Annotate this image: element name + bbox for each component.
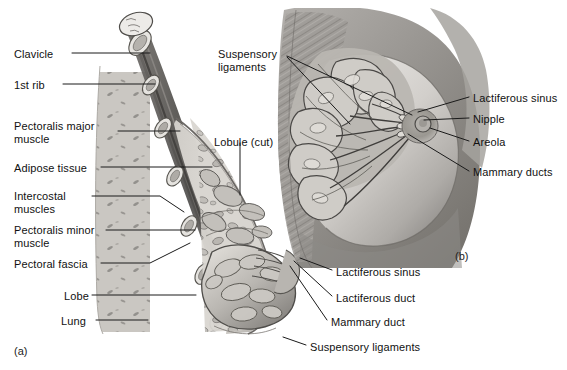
label-nipple: Nipple [473,113,505,126]
label-intercostal-muscles: Intercostal muscles [14,190,66,215]
label-areola: Areola [473,136,505,149]
label-1st-rib: 1st rib [14,79,45,92]
label-clavicle: Clavicle [14,48,53,61]
anatomy-figure: Clavicle1st ribPectoralis major muscleAd… [0,0,567,370]
label-lobule-cut: Lobule (cut) [214,136,273,149]
label-lactiferous-sinus: Lactiferous sinus [473,92,557,105]
label-mammary-duct: Mammary duct [331,316,405,329]
label-suspensory-ligaments: Suspensory ligaments [310,341,420,354]
label-pectoral-fascia: Pectoral fascia [14,258,88,271]
label-lactiferous-duct: Lactiferous duct [336,292,415,305]
panel-tag-sagittal-section: (a) [14,345,27,357]
label-suspensory-ligaments: Suspensory ligaments [218,48,277,73]
panel-tag-anterior-view: (b) [455,250,468,262]
label-adipose-tissue: Adipose tissue [14,162,87,175]
label-lactiferous-sinus: Lactiferous sinus [336,266,420,279]
label-pectoralis-major-muscle: Pectoralis major muscle [14,120,94,145]
label-pectoralis-minor-muscle: Pectoralis minor muscle [14,224,94,249]
label-mammary-ducts: Mammary ducts [473,166,553,179]
leader-suspensory-lig-a [283,337,306,345]
label-lung: Lung [61,315,86,328]
label-lobe: Lobe [64,290,89,303]
